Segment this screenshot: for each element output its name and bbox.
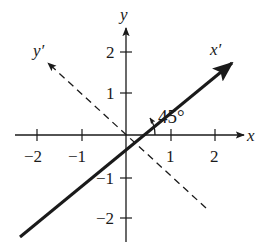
y-tick-label-2: 2 <box>106 43 115 62</box>
x-axis-label: x <box>246 126 255 145</box>
x-prime-label: x′ <box>209 40 222 59</box>
x-tick-label-2: 2 <box>210 147 219 166</box>
rotated-axes-diagram: x y x′ y′ −2 −1 1 2 2 1 −1 −2 45° <box>0 0 261 250</box>
y-prime-label: y′ <box>31 41 45 60</box>
x-tick-label-neg2: −2 <box>24 147 42 166</box>
y-tick-label-1: 1 <box>106 84 115 103</box>
y-tick-label-neg2: −2 <box>96 209 114 228</box>
angle-label: 45° <box>158 106 185 127</box>
x-tick-label-neg1: −1 <box>68 147 86 166</box>
y-tick-label-neg1: −1 <box>96 169 114 188</box>
x-axis <box>15 129 244 141</box>
y-axis-label: y <box>118 5 128 24</box>
x-tick-label-1: 1 <box>166 147 175 166</box>
